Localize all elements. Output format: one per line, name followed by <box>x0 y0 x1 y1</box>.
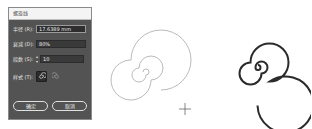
spiral-preview-path[interactable] <box>111 30 191 100</box>
artboard-canvas[interactable] <box>0 0 311 129</box>
spiral-final-path[interactable] <box>240 43 312 129</box>
crosshair-cursor-icon <box>179 103 191 115</box>
